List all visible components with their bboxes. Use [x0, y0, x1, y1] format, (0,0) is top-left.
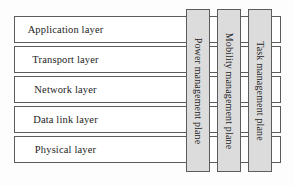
plane-box-power-management[interactable]: Power management plane	[186, 9, 210, 172]
plane-box-mobility-management[interactable]: Mobility management plane	[217, 9, 241, 172]
plane-label: Mobility management plane	[224, 32, 235, 149]
layer-label: Transport layer	[32, 54, 98, 65]
layer-label: Data link layer	[33, 114, 98, 125]
plane-box-task-management[interactable]: Task management plane	[248, 9, 272, 172]
plane-label: Power management plane	[193, 37, 204, 144]
layer-label: Application layer	[28, 24, 104, 35]
plane-label: Task management plane	[255, 41, 266, 141]
layer-label: Physical layer	[35, 144, 96, 155]
protocol-stack-diagram: Application layer Transport layer Networ…	[0, 0, 293, 186]
layer-label: Network layer	[34, 84, 96, 95]
